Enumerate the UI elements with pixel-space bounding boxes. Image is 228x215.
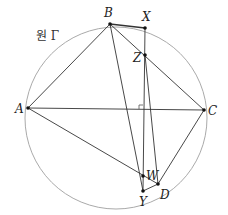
segment-yd xyxy=(143,184,158,191)
geometry-diagram: A B C D X Y Z W 원 Γ xyxy=(0,0,228,215)
point-c xyxy=(202,108,206,112)
label-x: X xyxy=(141,10,151,24)
segment-zd xyxy=(145,55,158,184)
point-b xyxy=(108,22,112,26)
circle-label: 원 Γ xyxy=(36,29,59,43)
right-angle-mark xyxy=(139,105,143,109)
segment-cd xyxy=(158,110,204,184)
label-w: W xyxy=(146,169,160,183)
point-z xyxy=(143,53,147,57)
segment-ac xyxy=(28,108,204,110)
points xyxy=(26,22,206,193)
point-y xyxy=(141,189,145,193)
label-c: C xyxy=(208,104,217,118)
label-y: Y xyxy=(139,195,148,209)
label-a: A xyxy=(14,102,24,116)
segment-ad xyxy=(28,108,158,184)
label-z: Z xyxy=(132,51,142,65)
segments xyxy=(28,24,204,191)
point-x xyxy=(143,26,147,30)
label-b: B xyxy=(103,6,113,20)
label-d: D xyxy=(159,188,170,202)
point-a xyxy=(26,106,30,110)
point-w xyxy=(141,174,145,178)
